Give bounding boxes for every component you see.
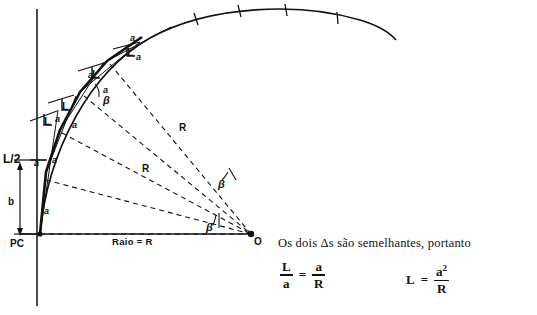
radius-label-1: R	[179, 122, 187, 133]
b-arrow-down	[17, 228, 23, 236]
fraction-a2-over-R: a2 R	[434, 264, 449, 295]
equation-proportion: L a = a R	[280, 260, 325, 290]
baseline-label: Raio = R	[112, 236, 153, 247]
center-point-label: O	[254, 236, 262, 247]
radius-lines	[40, 64, 251, 234]
equals-sign: =	[421, 272, 428, 288]
radius-label-2: R	[142, 163, 150, 174]
offset-b-label: b	[8, 196, 14, 207]
beta-label-2: β	[217, 178, 225, 190]
beta-label-1: β	[102, 94, 110, 106]
curve-arc	[40, 9, 396, 234]
offset-label-L-1: L	[44, 115, 51, 127]
equations-row: L a = a R L = a2 R	[278, 260, 537, 304]
explanatory-text-block: Os dois Δs são semelhantes, portanto L a…	[278, 236, 537, 315]
beta-label-3: β	[205, 221, 213, 233]
pc-point-label: PC	[10, 238, 24, 249]
pc-point-marker	[37, 231, 42, 236]
chord-label-a-5: a	[72, 120, 77, 130]
variable-L: L	[406, 272, 415, 288]
fraction-L-over-a: L a	[280, 260, 293, 290]
chord-label-a-8: a	[130, 33, 135, 43]
offset-label-L-4: L	[127, 46, 134, 58]
equals-sign: =	[299, 267, 306, 283]
fraction-numerator: a2	[434, 264, 449, 279]
similarity-statement: Os dois Δs são semelhantes, portanto	[278, 236, 537, 251]
chord-label-a-2: a	[34, 158, 39, 168]
offset-label-L-2: L	[62, 100, 69, 112]
chord-label-a-9: a	[136, 52, 141, 62]
fraction-a-over-R: a R	[312, 260, 325, 290]
fraction-numerator: a	[314, 260, 325, 273]
fraction-denominator: a	[281, 277, 292, 290]
fraction-denominator: R	[312, 277, 325, 290]
equation-solved: L = a2 R	[406, 264, 449, 295]
offset-brackets	[30, 42, 140, 121]
half-chord-label: L/2	[3, 152, 21, 166]
chord-label-a-4: a	[55, 114, 60, 124]
chord-label-a-3: a	[52, 155, 57, 165]
beta-angle-arcs	[95, 84, 228, 225]
offset-label-L-3: L	[92, 68, 99, 80]
fraction-denominator: R	[435, 282, 448, 295]
numerator-exponent: 2	[443, 263, 448, 273]
fraction-numerator: L	[280, 260, 293, 273]
chord-label-a-1: a	[44, 206, 49, 216]
